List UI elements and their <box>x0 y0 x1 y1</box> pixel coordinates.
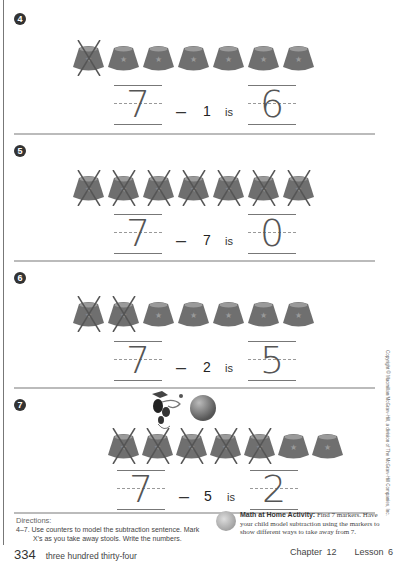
svg-text:★: ★ <box>260 311 267 320</box>
directions-title: Directions: <box>16 516 199 525</box>
svg-text:★: ★ <box>295 55 302 64</box>
subtract-value: 2 <box>203 359 211 375</box>
stool-crossed-icon: ★ <box>107 432 140 460</box>
result-value: 6 <box>248 84 296 124</box>
stool-crossed-icon: ★ <box>175 432 208 460</box>
directions: Directions: 4–7. Use counters to model t… <box>16 516 199 543</box>
stool-crossed-icon: ★ <box>247 174 280 202</box>
chapter-label: Chapter 12 <box>290 547 337 557</box>
is-label: is <box>227 491 235 503</box>
stool-icon: ★ <box>107 44 140 72</box>
minus-sign: – <box>176 101 186 122</box>
result-value: 5 <box>248 340 296 380</box>
svg-text:★: ★ <box>155 55 162 64</box>
svg-text:★: ★ <box>260 55 267 64</box>
stool-crossed-icon: ★ <box>212 174 245 202</box>
dog-illustration-icon <box>148 388 188 433</box>
svg-text:★: ★ <box>190 311 197 320</box>
svg-text:★: ★ <box>155 311 162 320</box>
svg-text:★: ★ <box>290 443 297 452</box>
copyright-notice: Copyright © Macmillan/McGraw-Hill, a div… <box>385 350 390 516</box>
problem-number-badge: 6 <box>14 272 26 284</box>
stool-icon: ★ <box>212 44 245 72</box>
total-value: 7 <box>114 340 162 380</box>
page-left-border <box>3 0 4 545</box>
result-answer-box[interactable]: 6 <box>248 85 296 125</box>
section-divider <box>14 260 375 262</box>
stool-icon: ★ <box>311 432 344 460</box>
stool-crossed-icon: ★ <box>282 174 315 202</box>
subtract-value: 5 <box>204 488 212 504</box>
stool-icon: ★ <box>177 44 210 72</box>
page-number-words: three hundred thirty-four <box>46 551 137 561</box>
svg-text:★: ★ <box>120 55 127 64</box>
stool-crossed-icon: ★ <box>142 174 175 202</box>
subtract-value: 1 <box>203 103 211 119</box>
stool-crossed-icon: ★ <box>177 174 210 202</box>
problem-number-badge: 4 <box>14 13 26 25</box>
stool-crossed-icon: ★ <box>107 300 140 328</box>
total-answer-box[interactable]: 7 <box>117 470 165 510</box>
result-answer-box[interactable]: 5 <box>248 341 296 381</box>
problem-number-badge: 7 <box>14 399 26 411</box>
home-activity-title: Math at Home Activity: <box>240 511 315 518</box>
total-answer-box[interactable]: 7 <box>114 341 162 381</box>
stool-icon: ★ <box>212 300 245 328</box>
ball-icon <box>190 395 216 421</box>
problem-number-badge: 5 <box>14 145 26 157</box>
stool-icon: ★ <box>247 300 280 328</box>
stool-row: ★★★★★★★ <box>72 44 315 72</box>
page-footer-left: 334three hundred thirty-four <box>14 545 137 561</box>
stool-icon: ★ <box>277 432 310 460</box>
stool-icon: ★ <box>142 300 175 328</box>
stool-icon: ★ <box>282 300 315 328</box>
svg-text:★: ★ <box>225 311 232 320</box>
result-answer-box[interactable]: 2 <box>250 470 298 510</box>
svg-text:★: ★ <box>190 55 197 64</box>
page-number: 334 <box>14 547 36 561</box>
section-divider <box>14 133 375 135</box>
stool-row: ★★★★★★★ <box>72 174 315 202</box>
stool-row: ★★★★★★★ <box>107 432 344 460</box>
stool-icon: ★ <box>142 44 175 72</box>
is-label: is <box>225 106 233 118</box>
stool-crossed-icon: ★ <box>72 44 105 72</box>
total-answer-box[interactable]: 7 <box>114 214 162 254</box>
stool-crossed-icon: ★ <box>243 432 276 460</box>
minus-sign: – <box>179 486 189 507</box>
svg-text:★: ★ <box>295 311 302 320</box>
is-label: is <box>225 235 233 247</box>
subtract-value: 7 <box>203 232 211 248</box>
stool-icon: ★ <box>282 44 315 72</box>
stool-crossed-icon: ★ <box>141 432 174 460</box>
stool-row: ★★★★★★★ <box>72 300 315 328</box>
stool-crossed-icon: ★ <box>107 174 140 202</box>
stool-icon: ★ <box>247 44 280 72</box>
result-answer-box[interactable]: 0 <box>248 214 296 254</box>
home-activity-icon <box>216 511 236 531</box>
svg-text:★: ★ <box>324 443 331 452</box>
total-answer-box[interactable]: 7 <box>114 85 162 125</box>
total-value: 7 <box>117 469 165 509</box>
page-footer-right: Chapter 12 Lesson 6 <box>290 547 393 557</box>
total-value: 7 <box>114 84 162 124</box>
minus-sign: – <box>176 230 186 251</box>
minus-sign: – <box>176 357 186 378</box>
lesson-label: Lesson 6 <box>355 547 394 557</box>
directions-line-2: X's as you take away stools. Write the n… <box>16 535 199 544</box>
stool-crossed-icon: ★ <box>72 300 105 328</box>
section-divider <box>14 387 375 389</box>
stool-crossed-icon: ★ <box>209 432 242 460</box>
stool-icon: ★ <box>177 300 210 328</box>
result-value: 0 <box>248 213 296 253</box>
is-label: is <box>225 362 233 374</box>
result-value: 2 <box>250 469 298 509</box>
total-value: 7 <box>114 213 162 253</box>
svg-text:★: ★ <box>225 55 232 64</box>
stool-crossed-icon: ★ <box>72 174 105 202</box>
directions-line-1: 4–7. Use counters to model the subtracti… <box>16 526 199 535</box>
